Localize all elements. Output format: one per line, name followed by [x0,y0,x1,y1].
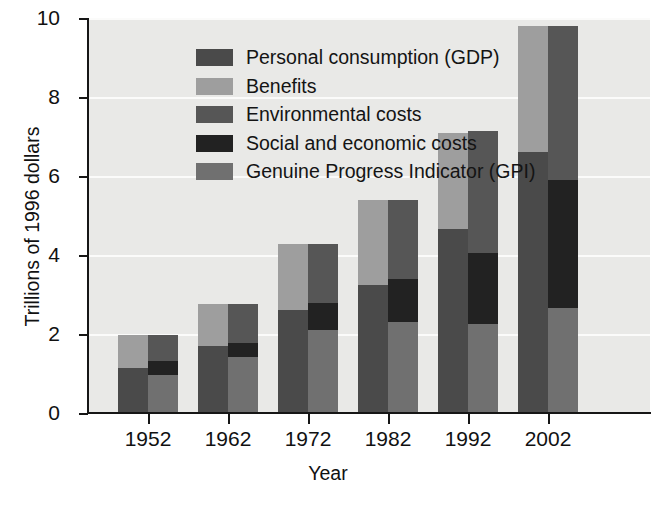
x-axis-tick [548,414,550,424]
bar-segment-genuine-progress-indicator-gpi [148,375,178,413]
bar-gdp-1962 [198,304,228,413]
bar-segment-benefits [358,200,388,285]
bar-segment-genuine-progress-indicator-gpi [308,330,338,413]
bar-segment-environmental-costs [548,26,578,180]
bar-segment-personal-consumption-gdp [198,346,228,413]
y-axis-tick-label: 0 [48,401,60,425]
chart-legend: Personal consumption (GDP)BenefitsEnviro… [196,45,535,188]
x-axis-tick [468,414,470,424]
y-axis-tick [79,176,88,178]
legend-swatch-environmental-costs [196,106,233,123]
bar-segment-social-and-economic-costs [148,361,178,375]
y-axis-tick [79,97,88,99]
bar-segment-environmental-costs [148,335,178,361]
legend-swatch-gpi [196,163,233,180]
legend-item-label: Genuine Progress Indicator (GPI) [246,160,535,183]
legend-swatch-personal-consumption [196,49,233,66]
x-axis-line [87,412,651,414]
bar-segment-personal-consumption-gdp [518,152,548,413]
x-axis-tick [228,414,230,424]
bar-gpi-1962 [228,304,258,413]
x-axis-tick-label: 1962 [205,427,252,451]
x-axis-title: Year [0,462,656,485]
x-axis-tick-label: 1952 [125,427,172,451]
y-axis-tick [79,334,88,336]
bar-segment-environmental-costs [388,200,418,279]
legend-swatch-social-economic-costs [196,135,233,152]
y-axis-tick-label: 10 [37,6,60,30]
plot-area: Personal consumption (GDP)BenefitsEnviro… [88,18,650,413]
bar-gdp-1972 [278,244,308,413]
legend-item: Benefits [196,74,535,99]
x-axis-tick [388,414,390,424]
bar-segment-genuine-progress-indicator-gpi [388,322,418,413]
bar-segment-genuine-progress-indicator-gpi [228,357,258,413]
y-axis-tick-label: 6 [48,164,60,188]
legend-swatch-benefits [196,78,233,95]
x-axis-tick-label: 1982 [365,427,412,451]
bar-segment-personal-consumption-gdp [278,310,308,413]
legend-item-label: Benefits [246,75,316,98]
legend-item: Social and economic costs [196,131,535,156]
x-axis-tick-label: 2002 [525,427,572,451]
gridline [88,18,650,20]
bar-gpi-2002 [548,26,578,413]
bar-gdp-1952 [118,335,148,413]
legend-item: Environmental costs [196,102,535,127]
x-axis-tick-label: 1972 [285,427,332,451]
x-axis-tick [308,414,310,424]
legend-item-label: Social and economic costs [246,132,477,155]
bar-segment-personal-consumption-gdp [118,368,148,413]
x-axis-tick [148,414,150,424]
x-axis-tick-label: 1992 [445,427,492,451]
bar-segment-genuine-progress-indicator-gpi [468,324,498,413]
legend-item-label: Personal consumption (GDP) [246,46,500,69]
bar-segment-environmental-costs [228,304,258,344]
bar-segment-social-and-economic-costs [468,253,498,324]
legend-item: Genuine Progress Indicator (GPI) [196,159,535,184]
bar-gpi-1982 [388,200,418,413]
bar-segment-environmental-costs [308,244,338,303]
bar-segment-social-and-economic-costs [388,279,418,322]
y-axis-tick-label: 4 [48,243,60,267]
bar-segment-social-and-economic-costs [308,303,338,330]
y-axis-tick [79,18,88,20]
legend-item-label: Environmental costs [246,103,422,126]
y-axis-title: Trillions of 1996 dollars [21,77,44,377]
bar-segment-social-and-economic-costs [548,180,578,308]
y-axis-tick-label: 2 [48,322,60,346]
y-axis-line [87,18,89,414]
bar-segment-personal-consumption-gdp [438,229,468,413]
bar-segment-benefits [278,244,308,310]
bar-segment-personal-consumption-gdp [358,285,388,413]
y-axis-tick [79,255,88,257]
bar-segment-social-and-economic-costs [228,343,258,357]
legend-item: Personal consumption (GDP) [196,45,535,70]
bar-segment-benefits [118,335,148,368]
y-axis-tick [79,413,88,415]
gpi-vs-gdp-bar-chart: Trillions of 1996 dollars Personal consu… [0,0,656,516]
bar-gdp-1982 [358,200,388,413]
bar-gpi-1952 [148,335,178,413]
bar-gpi-1972 [308,244,338,413]
y-axis-tick-label: 8 [48,85,60,109]
bar-segment-benefits [198,304,228,346]
bar-segment-genuine-progress-indicator-gpi [548,308,578,413]
